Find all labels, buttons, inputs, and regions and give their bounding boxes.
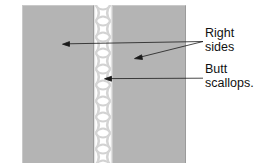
scallop-pattern-icon — [94, 5, 112, 163]
butted-scallop-seam-diagram: Right sides Butt scallops. — [0, 0, 266, 166]
butted-scallop-strip — [94, 5, 112, 163]
callout-butt-scallops: Butt scallops. — [205, 63, 254, 90]
callout-right-sides: Right sides — [205, 27, 234, 54]
fabric-panel-left — [22, 5, 94, 163]
fabric-panel-right — [112, 5, 186, 163]
